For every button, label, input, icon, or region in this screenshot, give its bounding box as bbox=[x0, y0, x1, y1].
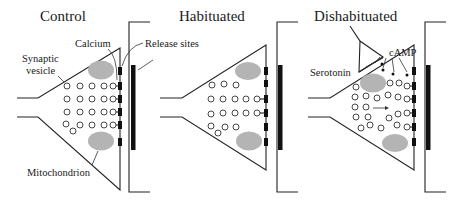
label-vesicle: vesicle bbox=[26, 65, 55, 76]
label-camp: cAMP bbox=[389, 47, 417, 58]
label-synaptic: Synaptic bbox=[22, 53, 59, 64]
release-sites bbox=[260, 67, 268, 146]
serotonin-terminal bbox=[350, 26, 383, 72]
vesicle-grid bbox=[208, 81, 260, 136]
mitochondrion-top bbox=[88, 61, 114, 80]
pointer-mitochondrion bbox=[92, 151, 98, 165]
panel-title-dishabituated: Dishabituated bbox=[314, 8, 398, 24]
mitochondrion-top bbox=[235, 62, 261, 80]
label-serotonin: Serotonin bbox=[310, 67, 352, 78]
mitochondrion-bottom bbox=[382, 134, 408, 152]
postsynaptic-receptor-bar bbox=[278, 65, 283, 150]
panel-title-control: Control bbox=[40, 8, 86, 24]
release-sites bbox=[410, 67, 416, 146]
postsynaptic-receptor-bar bbox=[131, 65, 136, 150]
panel-habituated: Habituated bbox=[160, 8, 298, 192]
panel-control: Control Sy bbox=[17, 8, 199, 192]
vesicle-grid bbox=[63, 83, 116, 134]
panel-dishabituated: Dishabituated bbox=[308, 8, 446, 192]
postsynaptic-receptor-bar bbox=[426, 65, 431, 150]
panel-title-habituated: Habituated bbox=[179, 8, 245, 24]
label-release-sites: Release sites bbox=[145, 38, 199, 49]
synapse-habituation-diagram: Control Sy bbox=[0, 0, 465, 204]
pointer-vesicle bbox=[58, 76, 64, 82]
label-calcium: Calcium bbox=[75, 38, 111, 49]
mitochondrion-top bbox=[360, 74, 386, 93]
pointer-receptor bbox=[138, 60, 153, 70]
mitochondrion-bottom bbox=[236, 132, 262, 151]
pointer-release-sites bbox=[122, 43, 143, 66]
label-mitochondrion: Mitochondrion bbox=[27, 167, 91, 178]
vesicle-movement-arrow bbox=[373, 106, 389, 110]
mitochondrion-bottom bbox=[88, 132, 114, 151]
